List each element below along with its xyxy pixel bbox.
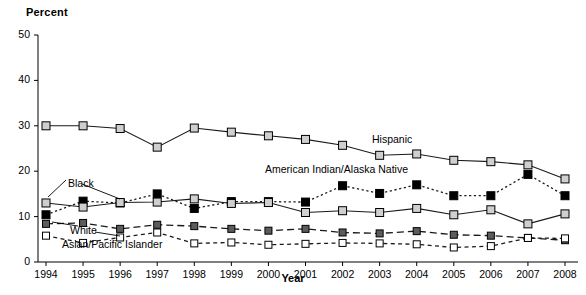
data-point-marker [561,210,569,218]
data-point-marker [190,204,198,212]
y-tick-label: 10 [8,210,30,222]
data-point-marker [339,229,346,236]
data-point-marker [376,151,384,159]
data-point-marker [487,192,495,200]
data-point-marker [228,225,235,232]
data-point-marker [154,229,161,236]
data-point-marker [376,230,383,237]
data-point-marker [153,143,161,151]
data-point-marker [487,243,494,250]
data-point-marker [487,158,495,166]
data-point-marker [339,182,347,190]
data-point-marker [487,206,495,214]
data-point-marker [339,207,347,215]
data-point-marker [376,209,384,217]
data-point-marker [524,161,532,169]
data-point-marker [413,228,420,235]
data-point-marker [42,122,50,130]
series-group [42,122,569,251]
data-point-marker [264,199,272,207]
data-point-marker [562,235,569,242]
series-annotation-label: Black [68,177,94,189]
data-point-marker [42,199,50,207]
data-point-marker [561,175,569,183]
data-point-marker [116,199,124,207]
data-point-marker [302,240,309,247]
data-point-marker [339,141,347,149]
data-point-marker [302,135,310,143]
data-point-marker [561,192,569,200]
cut-off-caption [0,288,586,295]
data-point-marker [450,211,458,219]
data-point-marker [191,240,198,247]
x-axis-title: Year [0,272,586,284]
data-point-marker [42,211,50,219]
data-point-marker [153,190,161,198]
data-point-marker [154,221,161,228]
data-point-marker [450,244,457,251]
data-point-marker [227,128,235,136]
data-point-marker [450,231,457,238]
data-point-marker [376,189,384,197]
data-point-marker [228,239,235,246]
data-point-marker [450,192,458,200]
data-point-marker [153,198,161,206]
annotation-leader-line [48,180,66,197]
data-point-marker [265,241,272,248]
y-tick-label: 20 [8,164,30,176]
data-point-marker [191,223,198,230]
data-point-marker [227,199,235,207]
data-point-marker [339,239,346,246]
data-point-marker [190,195,198,203]
data-point-marker [43,232,50,239]
data-point-marker [413,181,421,189]
data-point-marker [79,203,87,211]
data-point-marker [302,198,310,206]
series-annotation-label: Asian/Pacific Islander [62,238,162,250]
series-annotation-label: White [70,224,97,236]
data-point-marker [302,225,309,232]
data-point-marker [302,209,310,217]
data-point-marker [487,232,494,239]
data-point-marker [190,124,198,132]
data-point-marker [450,156,458,164]
data-point-marker [524,234,531,241]
data-point-marker [376,240,383,247]
data-point-marker [43,220,50,227]
data-point-marker [413,241,420,248]
data-point-marker [117,225,124,232]
y-tick-label: 30 [8,119,30,131]
series-annotation-label: American Indian/Alaska Native [265,163,408,175]
line-chart-plot [0,0,586,295]
series-annotation-label: Hispanic [372,133,412,145]
y-tick-label: 0 [8,255,30,267]
y-tick-label: 40 [8,73,30,85]
data-point-marker [413,150,421,158]
data-point-marker [264,132,272,140]
data-point-marker [524,170,532,178]
data-point-marker [116,125,124,133]
data-point-marker [265,227,272,234]
y-tick-label: 50 [8,28,30,40]
chart-figure: Percent 01020304050 19941995199619971998… [0,0,586,295]
data-point-marker [413,204,421,212]
data-point-marker [79,122,87,130]
data-point-marker [524,220,532,228]
